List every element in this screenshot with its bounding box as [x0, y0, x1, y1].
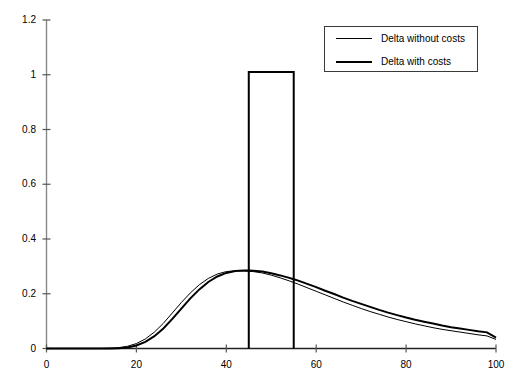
legend-label: Delta with costs: [381, 56, 451, 67]
legend-item-delta-without-costs: Delta without costs: [325, 27, 477, 50]
x-tick-label: 80: [381, 360, 431, 370]
series-line: [47, 271, 497, 349]
y-tick-label: 0.2: [0, 289, 36, 299]
x-tick-label: 20: [111, 360, 161, 370]
y-tick-label: 0.6: [0, 179, 36, 189]
x-tick-label: 40: [201, 360, 251, 370]
legend-label: Delta without costs: [381, 33, 465, 44]
legend-line-icon-thick: [336, 57, 372, 67]
series-line: [249, 72, 294, 348]
series-line: [47, 270, 497, 348]
y-tick-label: 0.8: [0, 125, 36, 135]
y-tick-label: 1.2: [0, 15, 36, 25]
chart-container: 00.20.40.60.811.2 020406080100 Delta wit…: [0, 0, 510, 380]
x-tick-label: 60: [291, 360, 341, 370]
chart-legend: Delta without costs Delta with costs: [324, 26, 478, 72]
y-tick-label: 0: [0, 344, 36, 354]
legend-line-icon-thin: [336, 34, 372, 44]
y-tick-label: 0.4: [0, 234, 36, 244]
y-tick-label: 1: [0, 70, 36, 80]
legend-item-delta-with-costs: Delta with costs: [325, 50, 477, 73]
data-series-group: [47, 72, 497, 348]
x-tick-label: 100: [471, 360, 510, 370]
x-tick-label: 0: [22, 360, 72, 370]
